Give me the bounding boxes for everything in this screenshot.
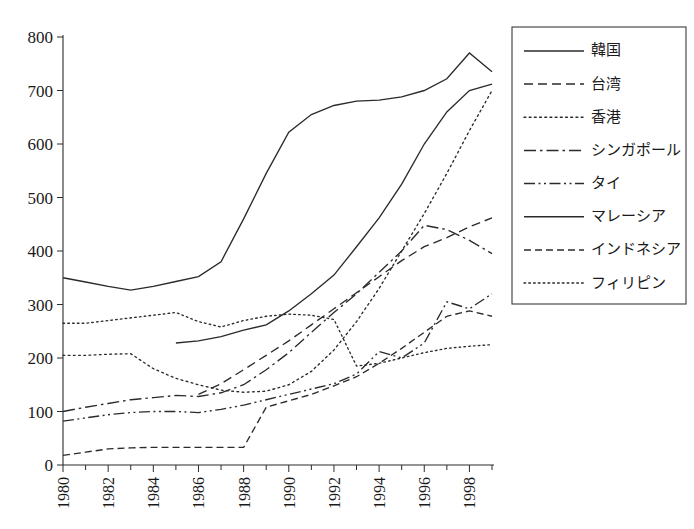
y-tick-label: 800 [28, 28, 54, 47]
x-tick-label: 1998 [461, 477, 478, 509]
x-tick-label: 1984 [145, 477, 162, 509]
legend-item-label: フィリピン [591, 274, 666, 292]
chart-page: 0100200300400500600700800 19801982198419… [0, 0, 694, 529]
legend: 韓国台湾香港シンガポールタイマレーシアインドネシアフィリピン [512, 27, 686, 304]
line-chart: 0100200300400500600700800 19801982198419… [0, 0, 694, 529]
x-tick-label: 1988 [236, 477, 253, 509]
legend-item-label: マレーシア [591, 207, 666, 225]
x-tick-label: 1992 [326, 477, 343, 509]
x-tick-label: 1986 [190, 477, 207, 509]
y-tick-label: 200 [28, 349, 54, 368]
y-tick-label: 500 [28, 189, 54, 208]
y-tick-label: 300 [28, 296, 54, 315]
legend-box [512, 27, 686, 304]
y-tick-label: 100 [28, 403, 54, 422]
x-tick-label: 1996 [416, 477, 433, 509]
x-tick-label: 1994 [371, 477, 388, 509]
legend-item-label: インドネシア [591, 240, 681, 258]
y-tick-label: 700 [28, 82, 54, 101]
legend-item-label: タイ [591, 174, 621, 192]
x-tick-label: 1982 [100, 477, 117, 509]
legend-item-label: 香港 [591, 108, 621, 126]
legend-item-label: シンガポール [591, 141, 681, 159]
legend-item-label: 韓国 [591, 41, 621, 59]
y-tick-label: 0 [45, 456, 54, 475]
y-tick-label: 400 [28, 242, 54, 261]
legend-item-label: 台湾 [591, 75, 621, 93]
x-tick-label: 1980 [55, 477, 72, 509]
y-tick-label: 600 [28, 135, 54, 154]
x-tick-label: 1990 [281, 477, 298, 509]
